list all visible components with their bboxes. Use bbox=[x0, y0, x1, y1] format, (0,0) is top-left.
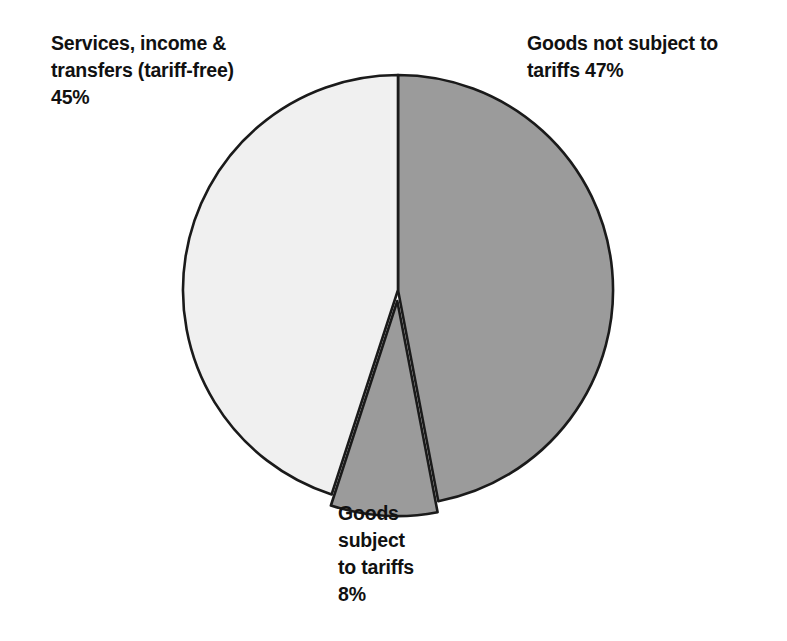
pie-label-goods-subject-to-tariffs: Goods subject to tariffs 8% bbox=[338, 500, 538, 608]
pie-chart: Services, income & transfers (tariff-fre… bbox=[0, 0, 787, 641]
pie-label-goods-not-subject-to-tariffs: Goods not subject to tariffs 47% bbox=[527, 30, 777, 84]
pie-slice-goods-not-subject-to-tariffs[interactable] bbox=[398, 75, 613, 501]
pie-label-services-income-transfers: Services, income & transfers (tariff-fre… bbox=[51, 30, 321, 111]
